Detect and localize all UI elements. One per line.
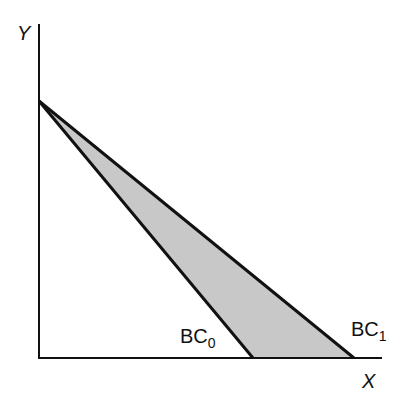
bc1-label: BC1 — [351, 318, 387, 344]
bc1-label-sub: 1 — [379, 328, 387, 344]
y-axis-label: Y — [17, 22, 32, 44]
bc1-label-main: BC — [351, 318, 379, 340]
bc0-label: BC0 — [180, 325, 216, 351]
budget-constraint-diagram: Y X BC0 BC1 — [0, 0, 409, 412]
x-axis-label: X — [361, 370, 376, 392]
bc0-label-main: BC — [180, 325, 208, 347]
bc0-line — [39, 101, 253, 358]
bc1-line — [39, 101, 354, 358]
bc0-label-sub: 0 — [208, 335, 216, 351]
